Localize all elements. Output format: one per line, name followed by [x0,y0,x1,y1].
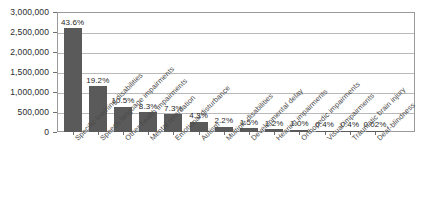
bar-data-label: 19.2% [86,76,109,85]
y-axis-tick-label: 2,000,000 [10,47,49,57]
y-axis-tick-label: 500,000 [18,107,49,117]
y-axis-tick-label: 1,500,000 [10,67,49,77]
y-axis-tick-label: 2,500,000 [10,27,49,37]
y-axis-tick-label: 0 [44,127,49,137]
bar-data-label: 43.6% [61,18,84,27]
bar[interactable] [64,28,82,132]
y-axis-tick-label: 1,000,000 [10,87,49,97]
bar-group[interactable]: 2.2% [211,12,236,132]
x-axis-category-labels: Specific learning disabilitiesSpeech lan… [57,136,432,220]
y-axis: 3,000,0002,500,0002,000,0001,500,0001,00… [0,12,53,132]
bar-chart: 3,000,0002,500,0002,000,0001,500,0001,00… [0,0,432,220]
y-axis-tick-label: 3,000,000 [10,7,49,17]
bars-layer: 43.6%19.2%10.5%8.3%7.3%4.3%2.2%1.5%1.2%1… [57,12,415,132]
bar-group[interactable]: 43.6% [60,12,85,132]
